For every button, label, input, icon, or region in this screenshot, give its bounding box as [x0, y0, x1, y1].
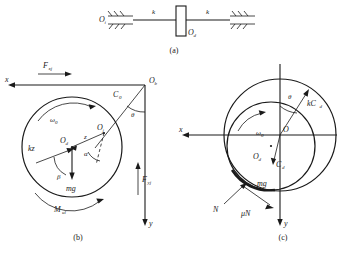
- panel-c-x-axis-arrowhead: [182, 132, 189, 137]
- panel-c-spring-force-label: kC: [307, 99, 317, 108]
- panel-b-moment-sub: ul: [62, 210, 67, 215]
- panel-b-theta-arc: [127, 106, 145, 112]
- panel-c-normal-force-leader: [224, 186, 243, 204]
- panel-c-contact-vector-arrow: [274, 135, 280, 160]
- panel-b-origin-sub: b: [155, 81, 158, 86]
- panel-b-force-fx-arrowhead: [65, 72, 72, 77]
- panel-b-spring-force-label: kz: [28, 144, 36, 153]
- panel-b-eccentricity-line: [72, 133, 104, 147]
- panel-b: x y O b F xj F yj ω 0 C 0 θ O: [4, 61, 158, 242]
- panel-b-weight-arrowhead: [69, 173, 74, 180]
- panel-b-x-axis-label: x: [4, 75, 9, 84]
- panel-a-spring-right-label: k: [206, 8, 210, 16]
- panel-a-caption: (a): [170, 46, 179, 55]
- panel-b-force-fy-sub: yj: [147, 180, 152, 185]
- panel-c-contact-vector-sub: d: [282, 165, 285, 170]
- panel-b-caption: (b): [73, 233, 83, 242]
- panel-b-y-axis-label: y: [148, 219, 153, 228]
- panel-b-moment-label: M: [53, 205, 62, 214]
- panel-b-spring-force-arrow: [36, 150, 70, 163]
- panel-c-theta-label: θ: [288, 93, 292, 101]
- panel-b-force-fx-label: F: [42, 61, 48, 70]
- panel-b-omega-sub: 0: [55, 120, 58, 125]
- panel-c: x y O kC d θ ω 0 O d C d mg: [178, 64, 337, 242]
- panel-b-alpha-label: α: [84, 150, 88, 158]
- panel-c-y-axis-arrowhead: [277, 219, 282, 226]
- panel-b-y-axis-arrowhead: [142, 219, 147, 226]
- panel-a-block-label-sub: d: [194, 33, 197, 38]
- panel-a-left-support-sub: i: [105, 20, 107, 25]
- panel-c-rotor-center-dot: [270, 145, 272, 147]
- panel-b-force-fx-sub: xj: [48, 66, 53, 71]
- panel-c-omega-arrowhead: [259, 110, 266, 115]
- panel-b-spring-force-arrowhead: [66, 148, 74, 153]
- ground-hatch-left-icon: [108, 11, 133, 29]
- panel-b-omega-arc: [38, 103, 92, 121]
- panel-b-clearance-sub: 0: [119, 95, 122, 100]
- panel-b-eccentricity-label: z: [83, 133, 87, 141]
- panel-a-disc-block: [176, 6, 186, 36]
- panel-b-force-fy-label: F: [141, 175, 147, 184]
- panel-c-spring-force-sub: d: [320, 104, 323, 109]
- panel-b-weight-label: mg: [66, 184, 76, 193]
- panel-c-rotor-center-sub: d: [259, 157, 262, 162]
- panel-b-beta-label: β: [56, 173, 61, 181]
- panel-b-omega-arrowhead: [89, 104, 96, 109]
- panel-a: O i k O d k: [99, 6, 255, 55]
- panel-c-friction-force-label: μN: [240, 209, 251, 218]
- panel-b-moment-arc: [35, 193, 100, 211]
- panel-b-force-fy-arrowhead: [135, 162, 140, 169]
- panel-c-caption: (c): [279, 233, 288, 242]
- panel-b-x-axis-arrowhead: [8, 82, 15, 87]
- panel-b-theta-label: θ: [131, 111, 135, 119]
- panel-a-spring-left-label: k: [152, 8, 156, 16]
- figure-canvas: O i k O d k: [0, 0, 357, 257]
- panel-c-spring-force-arrowhead: [303, 89, 309, 97]
- panel-c-normal-force-label: N: [212, 205, 219, 214]
- panel-c-y-axis-label: y: [283, 219, 288, 228]
- ground-hatch-right-icon: [230, 11, 255, 29]
- panel-c-weight-label: mg: [257, 179, 267, 188]
- panel-c-x-axis-label: x: [178, 125, 183, 134]
- figure-root: O i k O d k: [0, 0, 357, 257]
- panel-b-disc-center-sub: d: [66, 141, 69, 146]
